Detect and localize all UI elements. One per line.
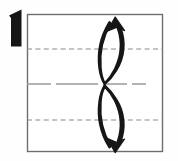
- origami-step-diagram: 1: [0, 0, 178, 161]
- diagram-canvas: 1: [0, 0, 178, 161]
- step-number-glyph: [9, 10, 22, 47]
- square-sheet-outline: [28, 15, 163, 152]
- step-number: 1: [0, 0, 22, 47]
